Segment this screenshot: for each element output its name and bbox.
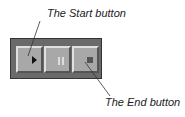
- callout-lines: [0, 0, 185, 117]
